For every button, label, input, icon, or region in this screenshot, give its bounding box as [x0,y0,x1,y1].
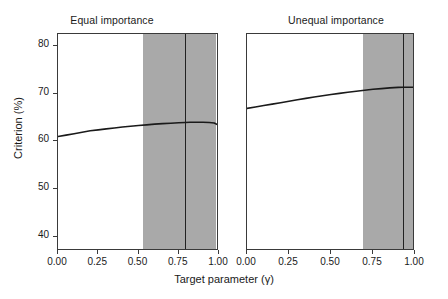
y-tick-label: 80 [17,38,49,49]
x-tick-label: 0.25 [77,256,117,267]
x-axis-label: Target parameter (γ) [0,273,448,285]
y-tick-mark [53,188,57,189]
plot-area-equal-importance [57,33,218,250]
y-tick-label: 40 [17,229,49,240]
y-tick-mark [53,93,57,94]
x-tick-mark [246,250,247,254]
panel-equal-importance: Equal importance 4050607080 0.000.250.50… [0,0,224,299]
plot-area-unequal-importance [246,33,414,250]
x-tick-mark [372,250,373,254]
y-tick-mark [53,140,57,141]
x-tick-label: 0.75 [352,256,392,267]
y-tick-mark [53,45,57,46]
criterion-curve-unequal-importance [247,34,414,250]
x-tick-mark [414,250,415,254]
x-tick-mark [57,250,58,254]
x-tick-mark [97,250,98,254]
y-axis-label: Criterion (%) [12,78,24,178]
panel-unequal-importance: Unequal importance 0.000.250.500.751.00 [224,0,448,299]
x-tick-label: 0.00 [226,256,266,267]
x-tick-mark [288,250,289,254]
x-tick-mark [178,250,179,254]
panel-title-unequal-importance: Unequal importance [224,14,448,26]
x-tick-label: 0.25 [268,256,308,267]
x-tick-label: 0.00 [37,256,77,267]
x-tick-mark [138,250,139,254]
x-tick-mark [218,250,219,254]
x-tick-label: 0.75 [158,256,198,267]
y-tick-mark [53,236,57,237]
criterion-curve-equal-importance [58,34,218,250]
x-tick-label: 1.00 [394,256,434,267]
x-tick-label: 0.50 [118,256,158,267]
x-tick-label: 0.50 [310,256,350,267]
panel-title-equal-importance: Equal importance [0,14,224,26]
y-tick-label: 50 [17,181,49,192]
x-tick-mark [330,250,331,254]
figure-root: Equal importance 4050607080 0.000.250.50… [0,0,448,299]
